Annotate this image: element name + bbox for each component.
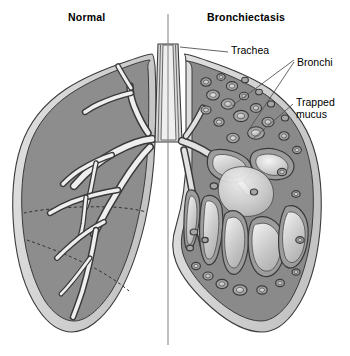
normal-lung-group [13, 54, 156, 332]
trapped-mucus-label-line2: mucus [296, 108, 335, 120]
trapped-mucus-label: Trapped mucus [296, 96, 335, 120]
bronchiectasis-lung-title: Bronchiectasis [207, 11, 285, 23]
trachea-label: Trachea [231, 44, 269, 56]
trapped-mucus-label-line1: Trapped [296, 96, 335, 108]
normal-lung-title: Normal [68, 11, 105, 23]
bronchi-label: Bronchi [297, 56, 333, 68]
lung-comparison-figure: Normal Bronchiectasis Trachea Bronchi Tr… [0, 0, 350, 356]
leader-line-trachea [180, 47, 228, 52]
anatomy-illustration-svg [0, 0, 350, 356]
